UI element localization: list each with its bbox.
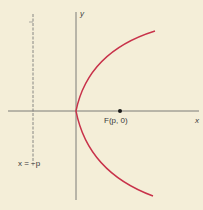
y-axis-label: y [80,10,84,18]
diagram-svg [0,0,203,210]
parabola-curve [76,31,155,196]
parabola-diagram: y x F(p, 0) x = −p [0,0,203,210]
x-axis-label: x [195,117,199,125]
focus-label: F(p, 0) [104,117,128,125]
focus-point [118,109,122,113]
directrix-label: x = −p [18,160,40,168]
